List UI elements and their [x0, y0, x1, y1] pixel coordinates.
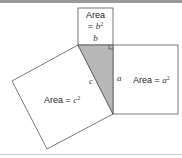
pythagorean-diagram: Area = b2 b c a Area = a2 Area = c2: [0, 0, 182, 158]
side-a-label: a: [117, 73, 122, 83]
side-c-label: c: [89, 76, 93, 86]
side-b-label: b: [93, 33, 98, 43]
square-b-label-line1: Area: [86, 10, 105, 20]
square-c-label: Area = c2: [44, 95, 80, 105]
square-a-label: Area = a2: [133, 75, 170, 85]
